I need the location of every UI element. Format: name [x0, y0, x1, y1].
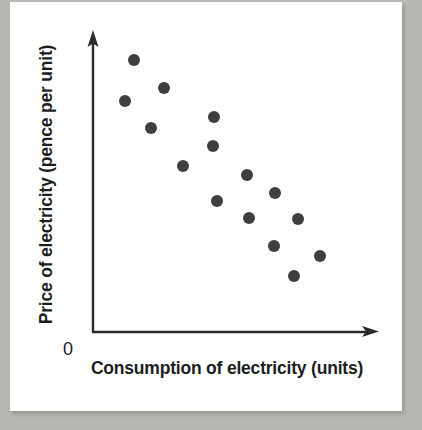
figure-root: Price of electricity (pence per unit) Co… — [0, 0, 422, 430]
scatter-point — [243, 212, 255, 224]
y-axis-label: Price of electricity (pence per unit) — [36, 35, 57, 335]
scatter-point — [207, 140, 219, 152]
x-axis-label: Consumption of electricity (units) — [62, 358, 392, 379]
scatter-point — [158, 82, 170, 94]
origin-label: 0 — [63, 339, 73, 360]
scatter-point — [314, 250, 326, 262]
scatter-point — [288, 270, 300, 282]
scatter-point — [211, 195, 223, 207]
scatter-point — [119, 95, 131, 107]
scatter-point — [292, 213, 304, 225]
scatter-point — [241, 169, 253, 181]
